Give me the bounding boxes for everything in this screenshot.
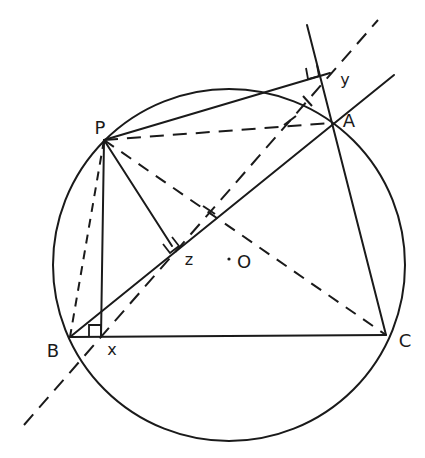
label-x: x: [107, 342, 116, 358]
dashed-lines: [24, 20, 386, 425]
label-p: P: [95, 119, 106, 137]
side-bc: [70, 335, 386, 337]
perp-py: [104, 73, 330, 140]
chord-pa: [104, 123, 332, 140]
label-y: y: [340, 72, 349, 88]
tick-pa-arrow: [284, 116, 296, 125]
point-dots: [227, 257, 230, 260]
label-b: B: [47, 342, 59, 360]
center-dot-o: [227, 257, 230, 260]
label-z: z: [185, 252, 193, 268]
label-a: A: [343, 112, 355, 130]
right-angle-markers: [89, 65, 319, 337]
perp-pz: [104, 140, 172, 246]
diagram-canvas: P A B C x y z O: [0, 0, 425, 458]
right-angle-x: [89, 325, 101, 337]
label-o: O: [237, 253, 251, 271]
chord-pb: [70, 140, 104, 337]
simson-line-figure: [0, 0, 425, 458]
right-angle-y: [306, 65, 319, 79]
label-c: C: [399, 332, 412, 350]
simson-line: [24, 20, 378, 425]
perp-px: [101, 140, 104, 337]
